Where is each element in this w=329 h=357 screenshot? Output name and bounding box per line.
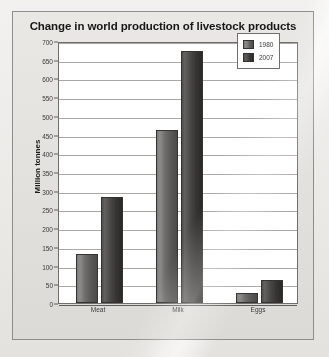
y-axis-tick-label: 500 [42, 113, 53, 120]
plot-area [58, 42, 298, 304]
scanned-page-background: Change in world production of livestock … [0, 0, 329, 357]
y-axis-tick-label: 50 [46, 282, 53, 289]
legend-swatch-icon [243, 40, 254, 49]
bar-meat-1980 [76, 254, 98, 303]
bar-meat-2007 [101, 197, 123, 303]
y-axis-tick-label: 600 [42, 76, 53, 83]
y-axis-tick-label: 250 [42, 207, 53, 214]
y-axis-tick-label: 200 [42, 226, 53, 233]
y-axis-tick-label: 350 [42, 170, 53, 177]
y-axis-tick-label: 700 [42, 39, 53, 46]
bar-milk-1980 [156, 130, 178, 303]
y-axis-tick-label: 100 [42, 263, 53, 270]
bars-layer [59, 43, 297, 303]
y-axis-tick-label: 300 [42, 188, 53, 195]
legend-swatch-icon [243, 53, 254, 62]
legend-item-1980: 1980 [243, 38, 273, 51]
chart-card: Change in world production of livestock … [12, 11, 314, 340]
x-axis: MeatMilkEggs [58, 306, 298, 320]
legend-item-label: 1980 [259, 41, 273, 48]
x-axis-tick-label: Eggs [251, 306, 266, 313]
y-axis-tick-label: 150 [42, 244, 53, 251]
y-axis-tick-label: 550 [42, 95, 53, 102]
legend-item-label: 2007 [259, 54, 273, 61]
legend-item-2007: 2007 [243, 51, 273, 64]
x-axis-tick-label: Milk [172, 306, 184, 313]
y-axis-tick-label: 650 [42, 57, 53, 64]
y-axis-tick-label: 400 [42, 151, 53, 158]
y-axis-tick-label: 450 [42, 132, 53, 139]
x-axis-tick-label: Meat [91, 306, 105, 313]
bar-eggs-1980 [236, 293, 258, 303]
y-axis: 0501001502002503003504004505005506006507… [25, 42, 58, 304]
chart-title: Change in world production of livestock … [13, 20, 313, 32]
bar-milk-2007 [181, 51, 203, 303]
y-axis-tick-label: 0 [49, 301, 53, 308]
chart-legend: 19802007 [237, 33, 280, 69]
bar-eggs-2007 [261, 280, 283, 303]
